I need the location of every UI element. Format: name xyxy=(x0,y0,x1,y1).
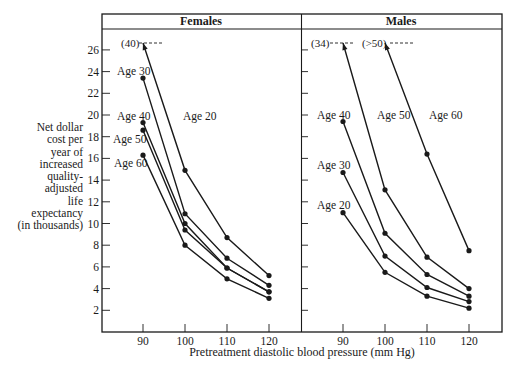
data-point xyxy=(424,255,429,260)
male-age40-label: Age 40 xyxy=(317,109,351,122)
data-point xyxy=(424,272,429,277)
data-point xyxy=(266,289,271,294)
data-point xyxy=(382,270,387,275)
female-age40-label: Age 40 xyxy=(117,110,151,123)
y-axis-ticks: 2468101214161820222426 xyxy=(88,44,309,316)
y-tick-label: 26 xyxy=(88,44,100,56)
panel-title-males: Males xyxy=(386,14,417,28)
y-tick-label: 20 xyxy=(88,109,100,121)
male-age20-label: Age 20 xyxy=(317,199,351,212)
series-females-age30 xyxy=(140,76,271,288)
chart: Females Males 2468101214161820222426 901… xyxy=(0,0,513,371)
data-point xyxy=(424,151,429,156)
x-tick-label: 120 xyxy=(460,335,478,347)
data-point xyxy=(182,243,187,248)
data-point xyxy=(466,299,471,304)
series-females-age50 xyxy=(140,128,271,295)
male-age30-label: Age 30 xyxy=(317,159,351,172)
data-point xyxy=(466,286,471,291)
data-point xyxy=(140,128,145,133)
y-tick-label: 24 xyxy=(88,66,100,78)
data-point xyxy=(382,231,387,236)
y-tick-label: 10 xyxy=(88,218,100,230)
chart-frame xyxy=(102,14,502,332)
data-point xyxy=(224,256,229,261)
y-tick-label: 16 xyxy=(88,152,100,164)
y-tick-label: 8 xyxy=(93,239,99,251)
data-point xyxy=(382,187,387,192)
y-tick-label: 4 xyxy=(93,283,99,295)
arrow-up-icon xyxy=(342,43,347,50)
female-age20-label: Age 20 xyxy=(183,110,217,123)
data-point xyxy=(224,265,229,270)
y-tick-label: 12 xyxy=(88,196,100,208)
series-males-age60 xyxy=(385,43,472,253)
female-age30-label: Age 30 xyxy=(117,65,151,78)
y-tick-label: 2 xyxy=(93,304,99,316)
y-tick-label: 6 xyxy=(93,261,99,273)
series-females-age60 xyxy=(140,153,271,301)
x-tick-label: 90 xyxy=(137,335,149,347)
male-age50-label: Age 50 xyxy=(377,109,411,122)
data-point xyxy=(182,211,187,216)
female-age60-label: Age 60 xyxy=(114,157,148,170)
data-point xyxy=(224,235,229,240)
x-axis-ticks: 9010011012090100110120 xyxy=(137,324,478,347)
female-age20-offscale-label: (40) xyxy=(121,37,140,50)
series-females-age20 xyxy=(143,43,272,278)
female-age50-label: Age 50 xyxy=(113,133,147,146)
male-age60-label: Age 60 xyxy=(429,109,463,122)
data-point xyxy=(466,248,471,253)
data-point xyxy=(266,283,271,288)
data-point xyxy=(224,276,229,281)
data-point xyxy=(466,306,471,311)
series-lines xyxy=(140,43,471,311)
male-age60-offscale-label: (>50) xyxy=(362,37,387,50)
data-point xyxy=(182,227,187,232)
data-point xyxy=(424,294,429,299)
series-females-age40 xyxy=(140,120,271,294)
data-point xyxy=(182,168,187,173)
data-point xyxy=(466,294,471,299)
data-point xyxy=(266,273,271,278)
y-tick-label: 22 xyxy=(88,87,100,99)
data-point xyxy=(382,253,387,258)
data-point xyxy=(424,285,429,290)
y-tick-label: 14 xyxy=(88,174,100,186)
arrow-up-icon xyxy=(143,43,148,50)
y-tick-label: 18 xyxy=(88,131,100,143)
x-axis-label: Pretreatment diastolic blood pressure (m… xyxy=(189,345,415,359)
data-point xyxy=(266,296,271,301)
panel-title-females: Females xyxy=(180,14,222,28)
male-age50-offscale-label: (34) xyxy=(311,37,330,50)
x-tick-label: 110 xyxy=(419,335,436,347)
